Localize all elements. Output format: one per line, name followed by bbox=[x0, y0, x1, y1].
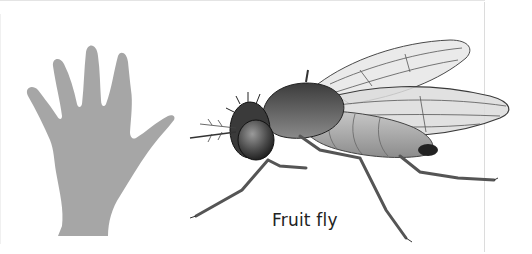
figure-caption: Fruit fly bbox=[272, 210, 338, 230]
fly-legs bbox=[196, 160, 306, 216]
fruit-fly-illustration bbox=[190, 40, 509, 242]
illustration-canvas bbox=[0, 0, 532, 254]
fly-eye bbox=[238, 120, 274, 160]
hand-silhouette bbox=[27, 46, 175, 236]
